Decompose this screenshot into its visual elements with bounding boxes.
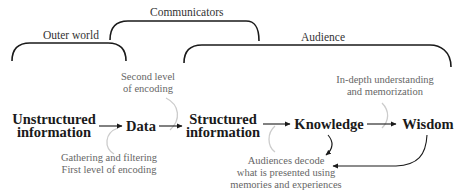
node-knowledge: Knowledge	[292, 118, 366, 131]
diagram-canvas: Outer world Communicators Audience Unstr…	[0, 0, 459, 196]
group-label-audience: Audience	[301, 32, 345, 44]
arrow-wisdom-to-note	[333, 135, 427, 166]
arrow-knowledge-to-note	[326, 135, 332, 155]
node-line: information	[184, 126, 262, 139]
bracket-outer-world	[12, 43, 126, 61]
connector-audiences	[269, 126, 275, 152]
node-data: Data	[124, 120, 158, 133]
node-wisdom: Wisdom	[399, 118, 457, 131]
connector-second-level	[166, 98, 177, 130]
node-line: information	[10, 126, 98, 139]
node-structured-information: Structured information	[184, 113, 262, 139]
group-label-communicators: Communicators	[150, 7, 223, 19]
note-audiences-decode: Audiences decode what is presented using…	[228, 155, 344, 191]
note-second-level-of-encoding: Second level of encoding	[118, 71, 178, 95]
note-gathering-and-filtering: Gathering and filtering First level of e…	[56, 152, 162, 176]
node-unstructured-information: Unstructured information	[10, 113, 98, 139]
connector-gathering	[107, 128, 118, 154]
bracket-audience	[184, 45, 451, 67]
bracket-communicators	[110, 21, 259, 41]
group-label-outer-world: Outer world	[43, 30, 99, 42]
note-in-depth-understanding: In-depth understanding and memorization	[330, 74, 440, 98]
